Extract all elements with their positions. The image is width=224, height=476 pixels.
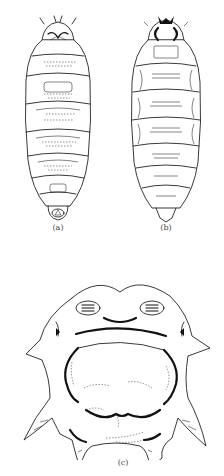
panel-c-posterior-detail: (c): [20, 270, 210, 476]
panel-a-larva-dorsal: (a): [14, 10, 102, 232]
posterior-end-drawing: [20, 270, 210, 460]
panel-c-label: (c): [108, 458, 138, 467]
panel-b-larva-ventral: (b): [122, 10, 210, 232]
panel-b-label: (b): [151, 223, 181, 232]
larva-ventral-drawing: [122, 10, 210, 232]
larva-dorsal-drawing: [14, 10, 102, 232]
panel-a-label: (a): [43, 223, 73, 232]
